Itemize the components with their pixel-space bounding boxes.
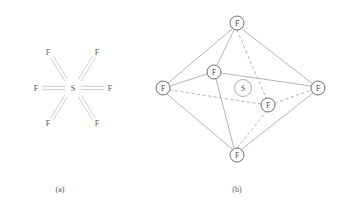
atom-label-fluorine-upper-left: F [46,48,51,57]
edge-bottom-right [242,93,313,149]
vertex-label-fluorine-front: F [212,68,216,77]
caption-panel-b: (b) [232,185,242,194]
vertex-label-fluorine-back: F [266,101,270,110]
atom-label-fluorine-upper-right: F [95,48,100,57]
vertex-label-fluorine-right: F [316,84,320,93]
caption-panel-a: (a) [56,185,65,194]
vertex-label-fluorine-top: F [235,19,239,28]
vertex-label-fluorine-left: F [161,84,165,93]
panel-a-lewis-structure: S F F F F F F (a) [34,48,113,194]
panel-a-atom-labels: S F F F F F F [34,48,113,128]
atom-label-sulfur-center: S [71,84,75,93]
atom-label-fluorine-right: F [108,84,113,93]
atom-label-fluorine-left: F [34,84,39,93]
bond-s-f-right [81,86,104,89]
edge-bottom-back [237,112,266,148]
vertex-fluorine-back: F [261,98,275,112]
edge-back-right [275,90,311,103]
vertex-label-fluorine-bottom: F [235,151,239,160]
panel-b-octahedron: F F F F F F [156,16,325,194]
bond-s-f-lower-left [50,95,67,120]
edge-left-front [170,74,207,86]
vertex-fluorine-top: F [230,16,244,30]
vertex-fluorine-left: F [156,81,170,95]
sf6-structure-figure: S F F F F F F (a) [0,0,337,211]
atom-label-fluorine-lower-right: F [95,119,100,128]
center-atom-sulfur: S [235,80,252,97]
edge-top-front [217,30,234,65]
edge-top-right [242,29,313,84]
edge-top-left [168,29,232,83]
atom-label-fluorine-lower-left: F [46,119,51,128]
bond-s-f-upper-left [50,56,67,81]
bond-s-f-upper-right [78,56,95,81]
vertex-fluorine-front: F [207,65,221,79]
vertex-fluorine-right: F [311,81,325,95]
center-label-sulfur: S [241,84,245,93]
edge-front-right [221,73,311,86]
bond-s-f-lower-right [78,95,95,120]
bond-s-f-left [42,86,65,89]
vertex-fluorine-bottom: F [230,148,244,162]
